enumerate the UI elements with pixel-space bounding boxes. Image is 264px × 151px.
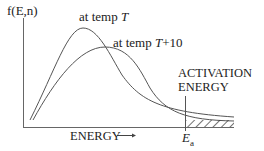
- curve-temp-t-label: at temp T: [79, 10, 128, 23]
- activation-energy-symbol: Ea: [182, 131, 194, 150]
- x-axis-label: ENERGY: [70, 129, 121, 143]
- activation-energy-label: ACTIVATION ENERGY: [178, 66, 252, 94]
- energy-arrow-head: [132, 134, 136, 138]
- y-axis-label: f(E,n): [7, 4, 38, 17]
- hatched-tail-region: [186, 120, 234, 127]
- curve-temp-t-plus-10-label: at temp T+10: [113, 36, 182, 49]
